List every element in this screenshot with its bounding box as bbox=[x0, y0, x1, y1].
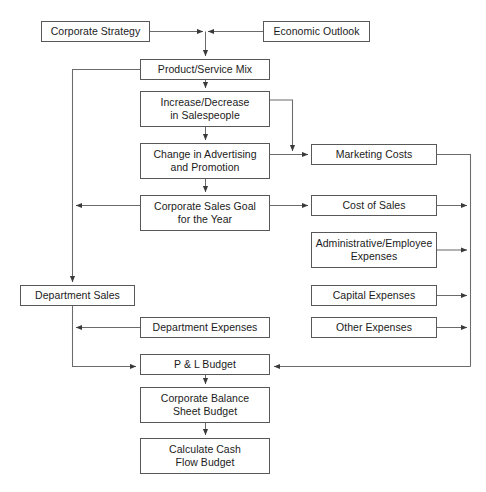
node-calculate-cash-flow-budget[interactable]: Calculate Cash Flow Budget bbox=[140, 438, 270, 474]
node-label: Change in Advertising and Promotion bbox=[151, 148, 258, 175]
node-label: Capital Expenses bbox=[331, 289, 418, 303]
node-label: Corporate Balance Sheet Budget bbox=[159, 392, 251, 419]
node-change-advertising-promotion[interactable]: Change in Advertising and Promotion bbox=[140, 143, 270, 179]
edge-product-service-mix-to-department-sales bbox=[73, 70, 141, 283]
node-label: Economic Outlook bbox=[271, 25, 361, 39]
node-label: Increase/Decrease in Salespeople bbox=[159, 96, 252, 123]
node-administrative-employee-expenses[interactable]: Administrative/Employee Expenses bbox=[311, 232, 437, 268]
node-label: Department Sales bbox=[33, 289, 122, 303]
edge-department-sales-to-pl-budget bbox=[73, 306, 137, 367]
node-label: P & L Budget bbox=[172, 358, 238, 372]
node-department-sales[interactable]: Department Sales bbox=[20, 285, 135, 306]
node-label: Calculate Cash Flow Budget bbox=[167, 443, 243, 470]
node-department-expenses[interactable]: Department Expenses bbox=[140, 317, 270, 338]
edge-marketing-costs-to-right-bus bbox=[437, 155, 471, 367]
node-other-expenses[interactable]: Other Expenses bbox=[311, 317, 437, 338]
node-label: Other Expenses bbox=[334, 321, 414, 335]
node-label: Department Expenses bbox=[151, 321, 260, 335]
node-label: Administrative/Employee Expenses bbox=[314, 237, 435, 264]
node-marketing-costs[interactable]: Marketing Costs bbox=[311, 144, 437, 165]
node-label: Cost of Sales bbox=[340, 199, 407, 213]
node-increase-decrease-salespeople[interactable]: Increase/Decrease in Salespeople bbox=[140, 91, 270, 127]
node-corporate-sales-goal[interactable]: Corporate Sales Goal for the Year bbox=[140, 195, 270, 231]
node-corporate-strategy[interactable]: Corporate Strategy bbox=[41, 21, 150, 42]
flowchart-canvas: Corporate Strategy Economic Outlook Prod… bbox=[0, 0, 486, 492]
edge-salespeople-to-marketing-costs bbox=[270, 100, 293, 151]
node-pl-budget[interactable]: P & L Budget bbox=[140, 354, 270, 375]
node-label: Corporate Sales Goal for the Year bbox=[152, 200, 258, 227]
node-label: Product/Service Mix bbox=[156, 63, 254, 77]
node-label: Marketing Costs bbox=[334, 148, 415, 162]
node-economic-outlook[interactable]: Economic Outlook bbox=[263, 21, 370, 42]
node-capital-expenses[interactable]: Capital Expenses bbox=[311, 285, 437, 306]
node-cost-of-sales[interactable]: Cost of Sales bbox=[311, 195, 437, 216]
node-corporate-balance-sheet-budget[interactable]: Corporate Balance Sheet Budget bbox=[140, 387, 270, 423]
node-product-service-mix[interactable]: Product/Service Mix bbox=[140, 59, 270, 80]
node-label: Corporate Strategy bbox=[49, 25, 143, 39]
